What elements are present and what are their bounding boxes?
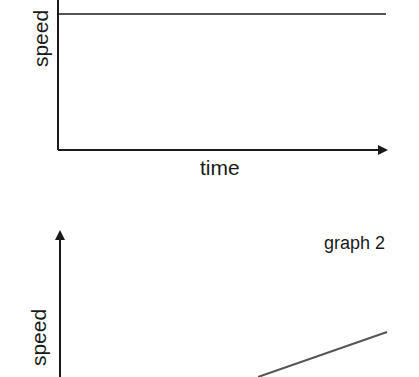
- graph-2-y-label: speed: [28, 308, 49, 368]
- graph-2-rising-speed-line: [258, 332, 387, 377]
- graph-2: [60, 232, 387, 377]
- graph-1-x-label: time: [200, 157, 240, 178]
- diagram-canvas: [0, 0, 419, 377]
- graph-1: [58, 0, 386, 150]
- graph-2-title: graph 2: [324, 234, 385, 252]
- graph-1-y-label: speed: [30, 9, 51, 69]
